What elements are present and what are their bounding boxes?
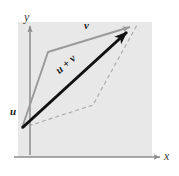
vector-addition-figure: u v u + v y x xyxy=(0,0,179,176)
x-axis-label: x xyxy=(164,150,169,162)
vector-label-v: v xyxy=(84,20,89,31)
diagram-canvas xyxy=(0,0,179,176)
vector-label-u: u xyxy=(10,106,16,117)
y-axis-label: y xyxy=(24,11,29,23)
plot-panel xyxy=(18,22,152,157)
